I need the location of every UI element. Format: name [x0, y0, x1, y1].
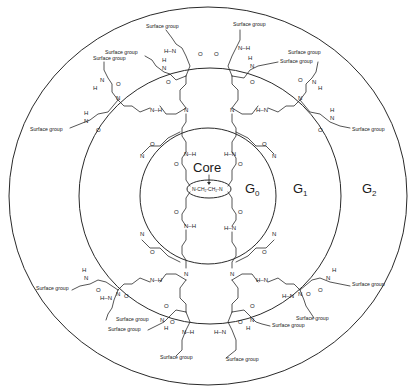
svg-text:N: N: [326, 275, 330, 281]
svg-text:N: N: [84, 275, 88, 281]
svg-text:H: H: [330, 107, 334, 113]
surface-group-label: Surface group: [352, 126, 385, 132]
svg-text:H: H: [332, 267, 336, 273]
svg-text:O: O: [238, 209, 243, 215]
surface-group-label: Surface group: [233, 21, 266, 27]
svg-text:H–N: H–N: [256, 277, 268, 283]
svg-text:N–H: N–H: [182, 329, 194, 335]
svg-text:G: G: [245, 181, 255, 196]
svg-text:N–H: N–H: [238, 45, 250, 51]
svg-text:N: N: [100, 77, 104, 83]
svg-text:O: O: [96, 127, 101, 133]
svg-text:O: O: [174, 209, 179, 215]
svg-text:H–N: H–N: [214, 329, 226, 335]
svg-text:O: O: [318, 287, 323, 293]
core-formula: N-CH₂-CH₂-N: [192, 186, 223, 192]
svg-text:N: N: [250, 63, 254, 69]
svg-text:H: H: [84, 110, 88, 116]
svg-text:H: H: [93, 85, 97, 91]
svg-text:G: G: [362, 181, 372, 196]
svg-text:H: H: [248, 55, 252, 61]
svg-text:H–N: H–N: [282, 293, 294, 299]
surface-group-label: Surface group: [116, 316, 149, 322]
svg-text:N: N: [84, 118, 88, 124]
svg-text:O: O: [96, 287, 101, 293]
svg-text:O: O: [262, 141, 267, 147]
surface-group-label: Surface group: [36, 285, 69, 291]
svg-text:O: O: [170, 319, 175, 325]
svg-text:H: H: [82, 267, 86, 273]
svg-text:N–H: N–H: [184, 223, 196, 229]
svg-text:N: N: [230, 271, 234, 277]
svg-text:O: O: [164, 303, 169, 309]
svg-text:O: O: [306, 291, 311, 297]
svg-text:H–N: H–N: [164, 48, 176, 54]
svg-text:O: O: [318, 127, 323, 133]
generation-label-g0: G 0: [245, 181, 260, 198]
svg-text:O: O: [198, 51, 203, 57]
core-label: Core: [193, 160, 221, 175]
outer-ring-g2: [9, 7, 407, 385]
g1-branches: N N N N N–H H–N N–H H–N N N N N N N N N: [116, 76, 302, 312]
surface-group-label: Surface group: [93, 55, 126, 61]
svg-text:O: O: [238, 319, 243, 325]
surface-group-label: Surface group: [296, 315, 329, 321]
svg-text:H: H: [246, 325, 250, 331]
svg-text:2: 2: [372, 189, 377, 198]
svg-text:O: O: [150, 249, 155, 255]
svg-text:O: O: [238, 161, 243, 167]
surface-group-label: Surface group: [288, 49, 321, 55]
generation-label-g2: G 2: [362, 181, 377, 198]
svg-text:O: O: [124, 293, 129, 299]
svg-text:N: N: [162, 65, 166, 71]
surface-group-label: Surface group: [160, 354, 193, 360]
middle-ring-g1: [79, 68, 341, 324]
svg-text:N: N: [272, 231, 276, 237]
svg-text:N: N: [160, 317, 164, 323]
svg-text:N: N: [140, 231, 144, 237]
svg-text:H: H: [162, 57, 166, 63]
svg-text:H–N: H–N: [100, 295, 112, 301]
svg-text:N–H: N–H: [150, 277, 162, 283]
svg-text:O: O: [166, 79, 171, 85]
core-arrowhead: [207, 182, 211, 185]
svg-text:1: 1: [303, 189, 308, 198]
svg-text:H–N: H–N: [224, 151, 236, 157]
surface-group-label: Surface group: [226, 356, 259, 362]
svg-text:O: O: [150, 141, 155, 147]
svg-text:H: H: [164, 325, 168, 331]
g2-branches: H–N O N H O N H O N H O N–H O N H O N H …: [70, 30, 350, 358]
svg-text:O: O: [250, 303, 255, 309]
surface-group-label: Surface group: [272, 322, 305, 328]
svg-text:O: O: [250, 79, 255, 85]
svg-text:N: N: [184, 271, 188, 277]
svg-text:N: N: [312, 79, 316, 85]
svg-text:G: G: [293, 181, 303, 196]
svg-text:N–H: N–H: [150, 107, 162, 113]
svg-text:O: O: [116, 81, 121, 87]
svg-text:O: O: [214, 51, 219, 57]
generation-label-g1: G 1: [293, 181, 308, 198]
svg-text:O: O: [262, 249, 267, 255]
surface-group-label: Surface group: [108, 326, 141, 332]
svg-text:O: O: [174, 161, 179, 167]
surface-group-label: Surface group: [30, 126, 63, 132]
svg-text:O: O: [298, 77, 303, 83]
svg-text:H–N: H–N: [256, 107, 268, 113]
surface-group-label: Surface group: [146, 23, 179, 29]
svg-text:H: H: [318, 85, 322, 91]
svg-text:N: N: [330, 115, 334, 121]
surface-group-label: Surface group: [280, 58, 313, 64]
svg-text:0: 0: [255, 189, 260, 198]
dendrimer-diagram: Core N-CH₂-CH₂-N G 0 G 1 G 2 N–H O H–N O…: [0, 0, 416, 390]
svg-text:H–N: H–N: [224, 225, 236, 231]
svg-text:N: N: [250, 317, 254, 323]
surface-group-label: Surface group: [352, 281, 385, 287]
